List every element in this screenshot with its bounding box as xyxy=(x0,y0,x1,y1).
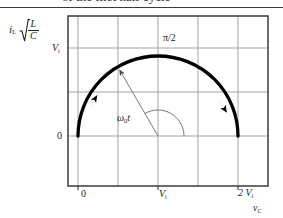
x-axis-symbol-sub: C xyxy=(257,207,261,214)
y-tick-label-zero: 0 xyxy=(57,131,62,141)
x-tick-2vi-value: 2 V xyxy=(238,187,252,198)
peak-phase-label: π/2 xyxy=(163,33,176,43)
x-tick-2vi-sub: i xyxy=(252,192,254,199)
y-axis-symbol-sub: L xyxy=(12,28,16,35)
x-axis-label: vC xyxy=(253,203,262,214)
y-tick-vi-sub: i xyxy=(58,47,60,54)
x-tick-label-zero: 0 xyxy=(81,189,86,199)
x-tick-label-vi: Vi xyxy=(159,189,167,200)
y-axis-label: iL L C xyxy=(9,17,39,43)
phase-plane-figure xyxy=(0,0,283,218)
angle-omega: ω xyxy=(117,112,124,123)
x-tick-label-2vi: 2 Vi xyxy=(238,188,253,199)
y-tick-label-vi: Vi xyxy=(52,43,60,54)
angle-time: t xyxy=(127,112,130,123)
x-tick-vi-sub: i xyxy=(165,193,167,200)
radical-icon xyxy=(19,17,28,43)
angle-label: ω0t xyxy=(117,113,130,124)
